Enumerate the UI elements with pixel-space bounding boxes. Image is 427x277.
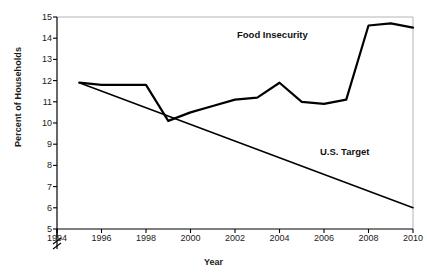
- series-label-us-target: U.S. Target: [320, 146, 369, 157]
- plot-frame: [57, 17, 413, 229]
- series-label-food-insecurity: Food Insecurity: [237, 29, 308, 40]
- plot-area: [0, 0, 427, 277]
- chart-container: Percent of Households Year 5678910111213…: [0, 0, 427, 277]
